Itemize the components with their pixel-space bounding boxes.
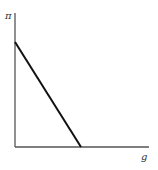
y-axis-label: π: [5, 11, 12, 21]
downward-sloping-line: [15, 42, 81, 147]
pi-g-diagram: [0, 0, 158, 170]
x-axis-label: g: [141, 152, 147, 162]
